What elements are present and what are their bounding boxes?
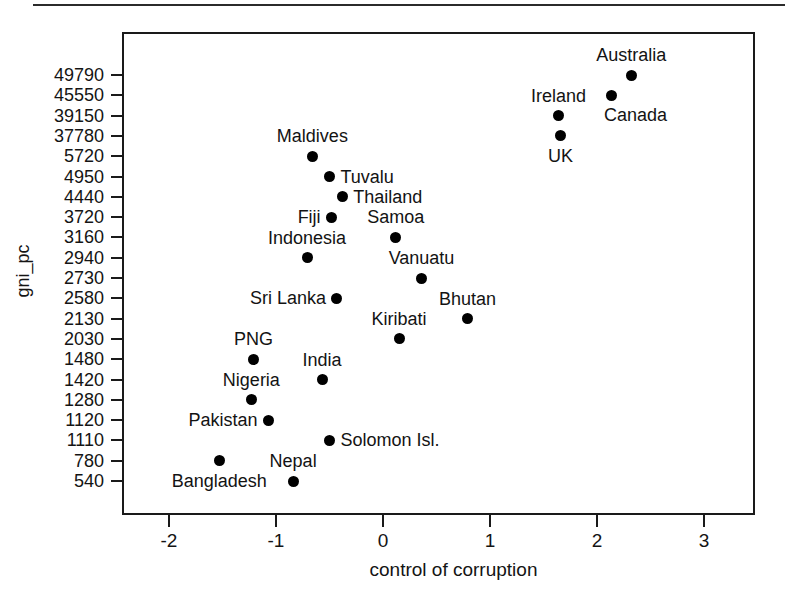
data-point-label: UK — [548, 147, 573, 165]
x-axis-title-text: control of corruption — [370, 559, 538, 580]
data-point-label: Solomon Isl. — [341, 431, 440, 449]
data-point-label: Bangladesh — [172, 472, 267, 490]
y-axis-tick-label: 1120 — [38, 411, 104, 429]
y-axis-tick — [111, 379, 122, 381]
x-axis-tick — [275, 515, 277, 527]
y-axis-tick — [111, 419, 122, 421]
y-axis-tick — [111, 318, 122, 320]
y-axis-tick-label: 5720 — [38, 147, 104, 165]
data-point-label: India — [302, 351, 341, 369]
y-axis-tick-label: 4440 — [38, 188, 104, 206]
y-axis-tick-label: 1480 — [38, 350, 104, 368]
y-axis-tick — [111, 277, 122, 279]
data-point-label: Samoa — [367, 208, 424, 226]
y-axis-tick — [111, 460, 122, 462]
x-axis-tick-label: 3 — [674, 531, 734, 551]
data-point[interactable] — [553, 110, 564, 121]
data-point[interactable] — [263, 415, 274, 426]
y-axis-tick-label-text: 45550 — [38, 86, 104, 104]
y-axis-tick-label: 1280 — [38, 391, 104, 409]
y-axis-tick — [111, 297, 122, 299]
y-axis-tick-label-text: 4440 — [38, 188, 104, 206]
y-axis-tick-label: 2940 — [38, 249, 104, 267]
y-axis-tick — [111, 236, 122, 238]
y-axis-tick-label-text: 1120 — [38, 411, 104, 429]
data-point[interactable] — [326, 212, 337, 223]
y-axis-tick — [111, 399, 122, 401]
data-point-label: Nigeria — [223, 371, 280, 389]
y-axis-tick-label-text: 2030 — [38, 330, 104, 348]
y-axis-tick — [111, 338, 122, 340]
y-axis-tick-label-text: 540 — [38, 472, 104, 490]
y-axis-tick-label-text: 780 — [38, 452, 104, 470]
data-point[interactable] — [248, 354, 259, 365]
scatter-chart: 4979045550391503778057204950444037203160… — [0, 0, 787, 611]
y-axis-tick — [111, 196, 122, 198]
y-axis-tick — [111, 257, 122, 259]
y-axis-tick-label: 1420 — [38, 371, 104, 389]
data-point-label: Fiji — [298, 208, 321, 226]
y-axis-tick — [111, 480, 122, 482]
y-axis-tick — [111, 155, 122, 157]
y-axis-tick — [111, 358, 122, 360]
data-point-label: Nepal — [270, 452, 317, 470]
y-axis-tick-label-text: 37780 — [38, 127, 104, 145]
data-point-label: Kiribati — [372, 310, 427, 328]
data-point-label: Thailand — [353, 188, 422, 206]
x-axis-tick-label: -2 — [139, 531, 199, 551]
data-point-label: PNG — [234, 330, 273, 348]
y-axis-tick — [111, 115, 122, 117]
data-point[interactable] — [288, 476, 299, 487]
data-point-label: Vanuatu — [389, 249, 455, 267]
data-point-label: Canada — [604, 106, 667, 124]
y-axis-tick — [111, 176, 122, 178]
x-axis-tick-label: -1 — [246, 531, 306, 551]
x-axis-tick-label: 0 — [353, 531, 413, 551]
y-axis-tick-label: 39150 — [38, 107, 104, 125]
y-axis-tick-label-text: 49790 — [38, 66, 104, 84]
data-point[interactable] — [317, 374, 328, 385]
data-point[interactable] — [626, 70, 637, 81]
y-axis-title: gni_pc — [14, 226, 32, 316]
y-axis-tick-label-text: 2730 — [38, 269, 104, 287]
data-point-label: Maldives — [277, 127, 348, 145]
x-axis-tick — [489, 515, 491, 527]
y-axis-tick — [111, 94, 122, 96]
data-point[interactable] — [324, 435, 335, 446]
y-axis-tick-label: 45550 — [38, 86, 104, 104]
y-axis-tick-label: 49790 — [38, 66, 104, 84]
y-axis-tick-label: 3160 — [38, 228, 104, 246]
y-axis-tick — [111, 135, 122, 137]
data-point[interactable] — [307, 151, 318, 162]
x-axis-tick — [703, 515, 705, 527]
x-axis-tick — [596, 515, 598, 527]
y-axis-tick-label: 4950 — [38, 168, 104, 186]
x-axis-tick-label: 2 — [567, 531, 627, 551]
data-point-label: Sri Lanka — [250, 289, 326, 307]
y-axis-tick-label: 2030 — [38, 330, 104, 348]
x-axis-tick-label: 1 — [460, 531, 520, 551]
data-point[interactable] — [214, 455, 225, 466]
y-axis-tick-label-text: 1280 — [38, 391, 104, 409]
y-axis-tick-label-text: 2130 — [38, 310, 104, 328]
y-axis-tick — [111, 216, 122, 218]
data-point-label: Bhutan — [439, 290, 496, 308]
data-point-label: Indonesia — [268, 229, 346, 247]
y-axis-tick-label-text: 2580 — [38, 289, 104, 307]
y-axis-tick-label-text: 1110 — [38, 431, 104, 449]
x-axis-title: control of corruption — [0, 560, 787, 580]
x-axis-tick — [382, 515, 384, 527]
y-axis-tick-label: 540 — [38, 472, 104, 490]
y-axis-tick-label-text: 1480 — [38, 350, 104, 368]
y-axis-tick-label-text: 2940 — [38, 249, 104, 267]
data-point-label: Australia — [596, 46, 666, 64]
data-point[interactable] — [394, 333, 405, 344]
data-point[interactable] — [302, 252, 313, 263]
y-axis-tick-label-text: 39150 — [38, 107, 104, 125]
y-axis-tick-label: 3720 — [38, 208, 104, 226]
y-axis-tick-label-text: 4950 — [38, 168, 104, 186]
data-point[interactable] — [416, 273, 427, 284]
y-axis-tick-label: 1110 — [38, 431, 104, 449]
y-axis-tick-label: 780 — [38, 452, 104, 470]
data-point[interactable] — [324, 171, 335, 182]
